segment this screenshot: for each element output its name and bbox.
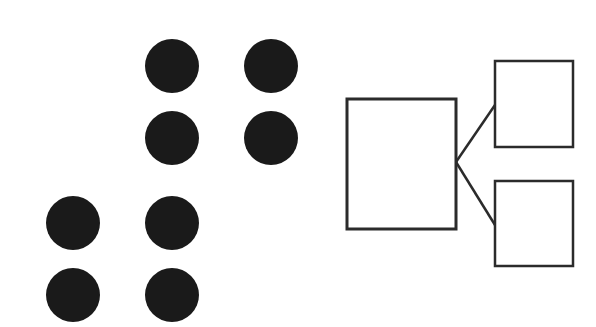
dot	[145, 268, 199, 322]
child-box-top	[495, 61, 573, 147]
connector-bottom	[456, 162, 495, 225]
tree-boxes	[347, 61, 573, 266]
tree-connectors	[456, 105, 495, 225]
dot	[145, 196, 199, 250]
diagram-canvas	[0, 0, 596, 327]
dot-grid	[46, 39, 298, 322]
dot	[244, 39, 298, 93]
dot	[244, 111, 298, 165]
dot	[145, 39, 199, 93]
dot	[46, 268, 100, 322]
dot	[145, 111, 199, 165]
child-box-bottom	[495, 181, 573, 266]
upper-right-group	[145, 39, 298, 165]
dot	[46, 196, 100, 250]
connector-top	[456, 105, 495, 162]
lower-left-group	[46, 196, 199, 322]
parent-box	[347, 99, 456, 229]
